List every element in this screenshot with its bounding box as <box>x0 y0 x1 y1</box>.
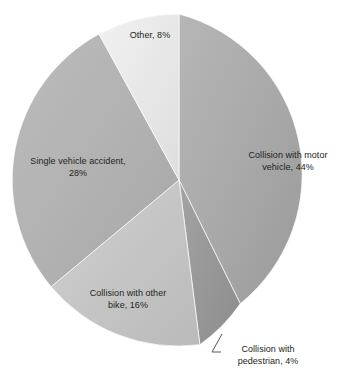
slice-label-collision-with-other-bike: Collision with other bike, 16% <box>70 288 186 311</box>
slice-label-collision-with-pedestrian: Collision with pedestrian, 4% <box>216 344 320 367</box>
pie-chart-canvas <box>0 0 351 389</box>
slice-label-single-vehicle-accident: Single vehicle accident, 28% <box>8 156 148 179</box>
slice-label-collision-with-motor-vehicle: Collision with motor vehicle, 44% <box>234 150 342 173</box>
pie-chart: Collision with motor vehicle, 44% Single… <box>0 0 351 389</box>
slice-label-other: Other, 8% <box>104 30 196 42</box>
